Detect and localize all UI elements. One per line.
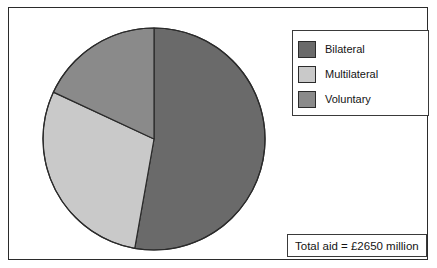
legend-item-multilateral[interactable]: Multilateral <box>298 62 428 87</box>
total-aid-text: Total aid = £2650 million <box>295 240 419 252</box>
legend-item-bilateral[interactable]: Bilateral <box>298 37 428 62</box>
legend-box: Bilateral Multilateral Voluntary <box>292 30 429 116</box>
pie-chart <box>42 27 266 251</box>
legend-label-voluntary: Voluntary <box>325 94 371 105</box>
figure-frame: Bilateral Multilateral Voluntary Total a… <box>8 7 428 260</box>
legend-label-bilateral: Bilateral <box>325 44 365 55</box>
legend-swatch-multilateral <box>298 66 316 83</box>
pie-chart-svg <box>42 27 266 251</box>
pie-slice-group <box>43 28 265 250</box>
legend-item-voluntary[interactable]: Voluntary <box>298 87 428 112</box>
legend-label-multilateral: Multilateral <box>325 69 378 80</box>
legend-swatch-voluntary <box>298 91 316 108</box>
legend-swatch-bilateral <box>298 41 316 58</box>
total-aid-caption: Total aid = £2650 million <box>287 234 427 257</box>
